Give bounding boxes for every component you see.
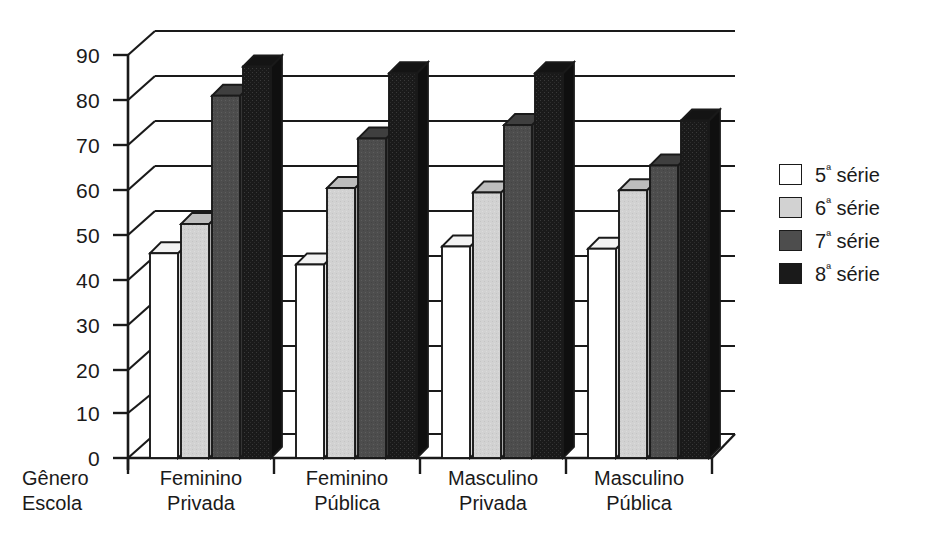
bar-g3-s2 [650,166,678,459]
depth-line-90 [128,31,155,55]
y-tick-label-10: 10 [44,403,100,424]
bar-g3-s3 [681,121,709,459]
bar-g1-s3 [389,73,417,458]
axis-title-escola: Escola [22,491,89,516]
chart-legend: 5ª série 6ª série 7ª série 8ª série [779,158,880,290]
legend-label-8a: 8ª série [815,264,880,284]
legend-label-5a-word: série [837,164,880,186]
bar-g3-s1 [619,190,647,458]
legend-label-7a-number: 7 [815,230,826,252]
bar-g2-s1 [473,193,501,459]
y-tick-label-20: 20 [44,360,100,381]
y-tick-label-90: 90 [44,45,100,66]
legend-label-7a-word: série [837,230,880,252]
legend-label-8a-number: 8 [815,263,826,285]
bar-side-g2-s3 [563,62,574,458]
y-tick-label-70: 70 [44,135,100,156]
bar-g0-s2 [212,96,240,458]
legend-label-8a-ordinal: ª [826,261,831,276]
axis-corner-titles: Gênero Escola [22,466,89,516]
y-tick-label-60: 60 [44,180,100,201]
y-tick-label-50: 50 [44,225,100,246]
legend-swatch-6a [779,197,802,218]
legend-label-8a-word: série [837,263,880,285]
legend-label-7a-ordinal: ª [826,228,831,243]
legend-item-6a: 6ª série [779,191,880,224]
bar-side-g1-s3 [417,62,428,458]
bar-g3-s0 [588,249,616,458]
legend-item-5a: 5ª série [779,158,880,191]
bar-g2-s2 [504,125,532,458]
bar-side-g3-s3 [709,110,720,459]
axis-title-genero: Gênero [22,466,89,491]
legend-item-7a: 7ª série [779,224,880,257]
depth-line-70 [128,121,155,145]
y-tick-label-40: 40 [44,270,100,291]
category-label-3: Masculino Pública [544,466,734,516]
bar-g2-s3 [535,73,563,458]
bar-g1-s1 [327,188,355,458]
legend-item-8a: 8ª série [779,257,880,290]
legend-label-6a-ordinal: ª [826,195,831,210]
legend-label-7a: 7ª série [815,231,880,251]
bar-g1-s0 [296,265,324,459]
legend-swatch-7a [779,230,802,251]
legend-label-5a-number: 5 [815,164,826,186]
y-tick-marks-group [113,55,128,458]
legend-label-6a: 6ª série [815,198,880,218]
legend-label-5a: 5ª série [815,165,880,185]
bar-g1-s2 [358,139,386,459]
bar-g0-s3 [243,67,271,459]
depth-line-80 [128,76,155,100]
legend-swatch-8a [779,263,802,284]
bar-side-g0-s3 [271,56,282,459]
legend-label-5a-ordinal: ª [826,162,831,177]
legend-swatch-5a [779,164,802,185]
category-label-3-line1: Masculino [544,466,734,491]
bar-g0-s1 [181,224,209,458]
legend-label-6a-word: série [837,197,880,219]
bar-g0-s0 [150,253,178,458]
y-tick-label-30: 30 [44,315,100,336]
depth-line-60 [128,166,155,190]
y-tick-label-80: 80 [44,90,100,111]
category-label-3-line2: Pública [544,491,734,516]
depth-line-50 [128,211,155,235]
legend-label-6a-number: 6 [815,197,826,219]
bar-chart-figure: 90 80 70 60 50 40 30 20 10 0 Gênero Esco… [0,0,934,542]
bar-g2-s0 [442,247,470,459]
